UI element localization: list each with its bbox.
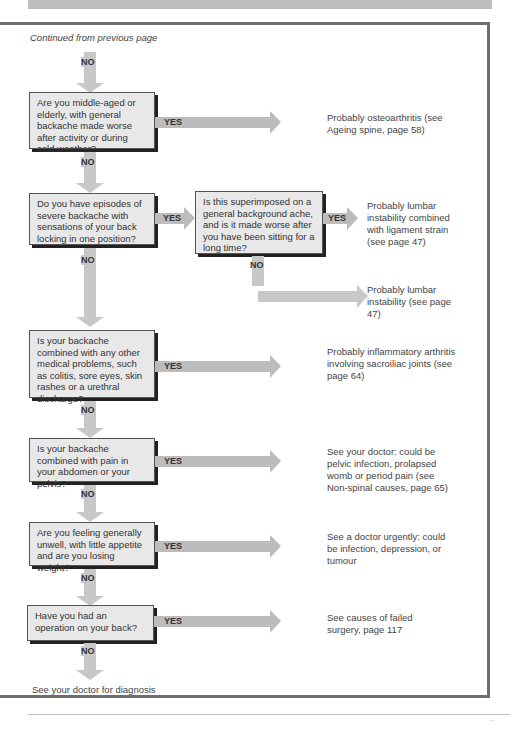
no-label: NO xyxy=(81,57,95,67)
no-label: NO xyxy=(81,489,95,499)
result-7: See causes of failed surgery, page 117 xyxy=(327,612,447,636)
top-header-bar xyxy=(28,0,492,9)
yes-label: YES xyxy=(328,213,346,223)
result-1: Probably osteoarthritis (see Ageing spin… xyxy=(327,112,447,136)
page-number: ·· xyxy=(490,716,495,725)
yes-label: YES xyxy=(164,361,182,371)
question-box-4: Is your backache combined with any other… xyxy=(29,330,155,398)
yes-label: YES xyxy=(164,616,182,626)
yes-label: YES xyxy=(164,456,182,466)
no-label: NO xyxy=(81,255,95,265)
result-3: Probably lumbar instability (see page 47… xyxy=(367,284,457,320)
continued-note: Continued from previous page xyxy=(30,32,157,43)
question-box-6: Are you feeling generally unwell, with l… xyxy=(29,522,155,566)
no-label: NO xyxy=(81,405,95,415)
no-label: NO xyxy=(250,260,264,270)
yes-label: YES xyxy=(164,541,182,551)
result-6: See a doctor urgently: could be infectio… xyxy=(327,531,457,567)
question-box-5: Is your backache combined with pain in y… xyxy=(29,438,155,482)
question-box-1: Are you middle-aged or elderly, with gen… xyxy=(29,92,155,149)
footer-rule xyxy=(28,714,510,715)
yes-label: YES xyxy=(163,213,181,223)
no-label: NO xyxy=(81,573,95,583)
result-5: See your doctor: could be pelvic infecti… xyxy=(327,446,457,494)
no-arrow-3-horizontal xyxy=(258,291,358,302)
result-4: Probably inflammatory arthritis involvin… xyxy=(327,346,457,382)
no-label: NO xyxy=(81,646,95,656)
yes-label: YES xyxy=(164,117,182,127)
question-box-3: Is this superimposed on a general backgr… xyxy=(195,191,323,254)
question-box-2: Do you have episodes of severe backache … xyxy=(29,193,155,245)
result-2: Probably lumbar instability combined wit… xyxy=(367,200,467,248)
final-outcome: See your doctor for diagnosis xyxy=(32,684,156,695)
no-label: NO xyxy=(81,157,95,167)
question-box-7: Have you had an operation on your back? xyxy=(27,605,154,641)
